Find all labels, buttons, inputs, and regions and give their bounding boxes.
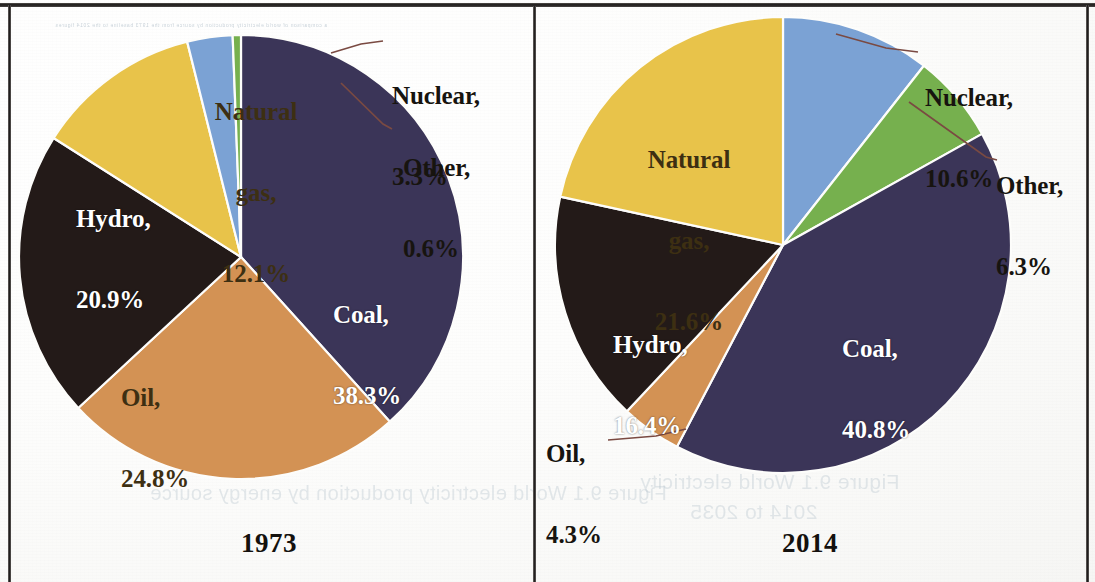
slice-label-oil-1973: Oil, 24.8% bbox=[121, 330, 189, 546]
slice-label-name: Other, bbox=[996, 172, 1063, 199]
slice-label-name: Natural bbox=[191, 98, 321, 125]
slice-label-value: 4.3% bbox=[546, 521, 602, 548]
chart-panel-1973: Natural gas, 12.1% Hydro, 20.9% Oil, 24.… bbox=[11, 0, 533, 582]
slice-label-name: Hydro, bbox=[76, 205, 151, 232]
slice-label-value: 0.6% bbox=[403, 235, 470, 262]
slice-label-name: Hydro, bbox=[613, 331, 688, 358]
slice-label-value: 20.9% bbox=[76, 286, 151, 313]
slice-label-value: 38.3% bbox=[333, 382, 401, 409]
slice-label-natural-gas-1973: Natural gas, 12.1% bbox=[191, 44, 321, 341]
slice-label-name: Nuclear, bbox=[925, 84, 1013, 111]
slice-label-coal-1973: Coal, 38.3% bbox=[333, 247, 401, 463]
slice-label-hydro-2014: Hydro, 16.4% bbox=[613, 277, 688, 493]
slice-label-value: 12.1% bbox=[191, 260, 321, 287]
slice-label-other-1973: Other, 0.6% bbox=[403, 100, 470, 316]
slice-label-name2: gas, bbox=[191, 179, 321, 206]
year-caption-1973: 1973 bbox=[241, 528, 297, 559]
slice-label-value: 40.8% bbox=[842, 416, 910, 443]
slice-label-value: 6.3% bbox=[996, 253, 1063, 280]
slice-label-value: 24.8% bbox=[121, 465, 189, 492]
frame-border-right bbox=[1086, 5, 1089, 582]
slice-label-name: Other, bbox=[403, 154, 470, 181]
leader-line bbox=[331, 41, 383, 53]
slice-label-value: 16.4% bbox=[613, 412, 688, 439]
slice-label-name: Natural bbox=[624, 146, 754, 173]
slice-label-name2: gas, bbox=[624, 227, 754, 254]
slice-label-name: Oil, bbox=[546, 440, 602, 467]
slice-label-name: Oil, bbox=[121, 384, 189, 411]
slice-label-oil-2014: Oil, 4.3% bbox=[546, 386, 602, 582]
slice-label-coal-2014: Coal, 40.8% bbox=[842, 281, 910, 497]
year-caption-2014: 2014 bbox=[782, 528, 838, 559]
scanned-page: a comparison of world electricity produc… bbox=[0, 0, 1095, 582]
slice-label-name: Coal, bbox=[842, 335, 910, 362]
slice-label-other-2014: Other, 6.3% bbox=[996, 118, 1063, 334]
slice-label-name: Coal, bbox=[333, 301, 401, 328]
